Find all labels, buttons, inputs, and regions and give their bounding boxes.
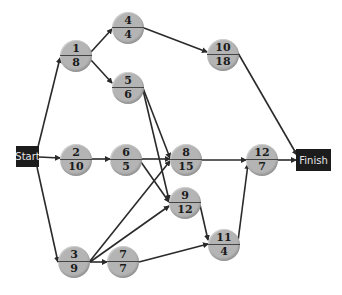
activity-id: 9: [169, 190, 201, 202]
edge-n10-finish: [238, 53, 297, 155]
activity-duration: 4: [112, 29, 144, 41]
edge-start-n3: [37, 167, 58, 262]
activity-node-12: 127: [246, 144, 278, 176]
activity-node-6: 65: [110, 144, 142, 176]
start-label: Start: [15, 151, 39, 162]
activity-duration: 18: [207, 56, 239, 68]
activity-duration: 7: [107, 263, 139, 275]
activity-id: 12: [246, 147, 278, 159]
activity-node-1: 18: [60, 40, 92, 72]
edge-start-n2: [39, 157, 60, 158]
activity-node-7: 77: [107, 246, 139, 278]
activity-duration: 7: [246, 161, 278, 173]
edge-n9-n11: [200, 205, 208, 240]
edge-n1-n5: [91, 60, 112, 83]
edge-n7-n11: [139, 244, 208, 262]
activity-id: 10: [207, 42, 239, 54]
activity-id: 5: [112, 75, 144, 87]
activity-node-8: 815: [170, 144, 202, 176]
activity-id: 3: [58, 249, 90, 261]
activity-node-4: 44: [112, 12, 144, 44]
activity-id: 6: [110, 147, 142, 159]
activity-id: 2: [60, 147, 92, 159]
activity-id: 4: [112, 15, 144, 27]
activity-id: 11: [208, 232, 240, 244]
activity-duration: 6: [112, 89, 144, 101]
activity-node-10: 1018: [207, 39, 239, 71]
edge-n11-n12: [238, 164, 248, 241]
activity-duration: 15: [170, 161, 202, 173]
activity-id: 1: [60, 43, 92, 55]
edge-n4-n10: [144, 28, 207, 52]
edge-start-n1: [38, 58, 60, 147]
activity-node-11: 114: [208, 229, 240, 261]
network-diagram: StartFinish 1844561018210658151279121143…: [0, 0, 342, 295]
activity-id: 7: [107, 249, 139, 261]
activity-node-5: 56: [112, 72, 144, 104]
activity-duration: 5: [110, 161, 142, 173]
activity-duration: 12: [169, 204, 201, 216]
activity-node-3: 39: [58, 246, 90, 278]
activity-duration: 8: [60, 57, 92, 69]
start-terminal: Start: [16, 146, 39, 167]
activity-duration: 9: [58, 263, 90, 275]
activity-duration: 4: [208, 246, 240, 258]
activity-node-2: 210: [60, 144, 92, 176]
finish-terminal: Finish: [296, 149, 331, 171]
activity-id: 8: [170, 147, 202, 159]
finish-label: Finish: [299, 155, 327, 166]
edge-n1-n4: [91, 29, 112, 52]
activity-duration: 10: [60, 161, 92, 173]
activity-node-9: 912: [169, 187, 201, 219]
edge-n3-n8: [90, 161, 170, 261]
